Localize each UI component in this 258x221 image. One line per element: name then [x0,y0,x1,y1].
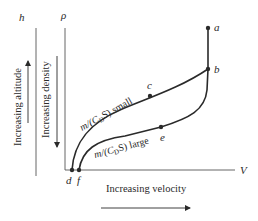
curve-large-label: m/(CDS) large [93,135,151,162]
svg-text:b: b [214,63,220,75]
increasing-velocity-arrow: Increasing velocity [101,183,190,208]
velocity-axis: V [65,164,248,176]
point-f: f [77,168,82,186]
increasing-altitude-label: Increasing altitude [12,68,23,146]
increasing-velocity-label: Increasing velocity [106,183,187,194]
increasing-altitude-arrow: Increasing altitude [12,61,28,146]
velocity-axis-label: V [240,164,248,176]
point-c: c [147,79,152,98]
increasing-density-label: Increasing density [40,61,51,138]
svg-text:a: a [214,21,220,33]
point-d: d [66,168,74,186]
svg-text:f: f [77,174,82,186]
svg-text:c: c [147,79,152,91]
increasing-density-arrow: Increasing density [40,56,57,147]
svg-text:d: d [66,174,72,186]
curve-small-label: m/(CDS) small [78,95,135,135]
altitude-axis-label: h [19,11,25,23]
density-axis-label: ρ [60,9,66,21]
point-e: e [159,125,165,143]
svg-text:e: e [160,131,165,143]
density-axis: ρ [60,9,66,170]
trajectory-diagram: h Increasing altitude Increasing density… [0,0,258,221]
